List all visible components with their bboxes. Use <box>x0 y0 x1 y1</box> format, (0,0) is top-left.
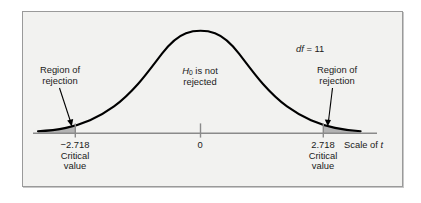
axis-title-prefix: Scale of <box>344 139 380 150</box>
right-critical-number: 2.718 <box>311 139 334 150</box>
center-axis-value: 0 <box>197 139 202 150</box>
left-critical-number: −2.718 <box>61 139 90 150</box>
axis-title: Scale of t <box>344 140 383 151</box>
right-critical-line2: Critical <box>309 150 338 161</box>
degrees-of-freedom-label: df = 11 <box>296 44 324 55</box>
right-rejection-arrow <box>325 88 333 126</box>
df-symbol: df <box>296 43 304 54</box>
h0-line1-rest: is not <box>193 65 218 76</box>
right-critical-line3: value <box>312 160 334 171</box>
right-rejection-line1: Region of <box>317 64 357 75</box>
right-rejection-label: Region of rejection <box>308 65 366 86</box>
df-value: 11 <box>315 43 325 54</box>
h0-subscript: 0 <box>189 69 193 76</box>
right-rejection-line2: rejection <box>319 75 354 86</box>
h0-letter: H <box>182 65 189 76</box>
df-equals: = <box>304 43 315 54</box>
left-critical-line3: value <box>64 160 86 171</box>
center-axis-label: 0 <box>186 140 214 151</box>
left-rejection-line2: rejection <box>42 75 77 86</box>
h0-symbol: H0 <box>182 65 193 76</box>
left-rejection-arrow <box>60 88 74 126</box>
left-rejection-line1: Region of <box>40 64 80 75</box>
left-critical-line2: Critical <box>61 150 90 161</box>
null-hypothesis-label: H0 is not rejected <box>163 66 237 87</box>
h0-line2: rejected <box>183 76 216 87</box>
left-critical-value-label: −2.718 Critical value <box>43 140 107 172</box>
distribution-plot <box>0 0 421 203</box>
axis-title-variable: t <box>380 139 383 150</box>
left-rejection-label: Region of rejection <box>31 65 89 86</box>
t-distribution-figure: Region of rejection Region of rejection … <box>0 0 421 203</box>
